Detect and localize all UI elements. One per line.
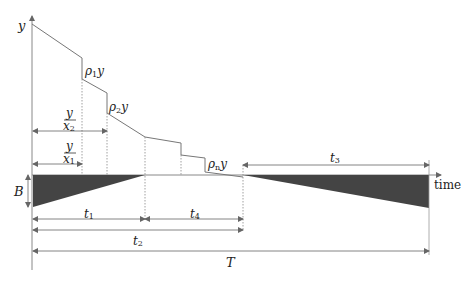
t1-label: t1: [84, 207, 94, 221]
right-shaded-triangle: [243, 175, 429, 208]
dotted-guides: [82, 79, 243, 230]
fraction-x1-numerator: y: [65, 139, 73, 153]
time-axis-label: time: [434, 178, 461, 192]
t3-label: t3: [330, 151, 340, 165]
fraction-x1-denominator: x1: [63, 152, 75, 166]
rho2-label: ρ2y: [108, 100, 128, 115]
b-label: B: [13, 184, 24, 199]
rhon-label: ρny: [207, 157, 227, 172]
y-axis-label: y: [17, 18, 26, 33]
left-shaded-triangle: [33, 175, 145, 207]
rho1-label: ρ1y: [84, 64, 104, 79]
fraction-x2-denominator: x2: [63, 119, 75, 133]
t-total-label: T: [226, 255, 236, 270]
fraction-x2-numerator: y: [65, 106, 73, 120]
t2-label: t2: [133, 234, 143, 248]
diagram-canvas: y time ρ1y ρ2y ρny y x2 y x1 B t1 t4 t2 …: [0, 0, 471, 281]
t4-label: t4: [190, 207, 200, 221]
